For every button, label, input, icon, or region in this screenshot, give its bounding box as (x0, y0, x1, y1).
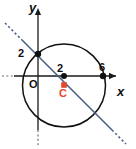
diagonal-line-dashed-end (112, 130, 126, 144)
tick-label-y-two: 2 (18, 48, 24, 59)
tick-label-x-two: 2 (57, 63, 63, 74)
figure-canvas (0, 0, 136, 149)
origin-label: O (29, 79, 38, 90)
x-axis-arrow-icon (109, 73, 116, 79)
y-axis-label: y (29, 1, 36, 14)
point-y-intercept (35, 51, 41, 57)
geometry-figure: y x 2 2 6 O C (0, 0, 136, 149)
point-x-six (100, 73, 106, 79)
diagonal-line-dashed-start (5, 23, 22, 40)
tick-label-x-six: 6 (99, 62, 105, 73)
center-point-label: C (59, 88, 67, 99)
x-axis-label: x (117, 85, 124, 98)
